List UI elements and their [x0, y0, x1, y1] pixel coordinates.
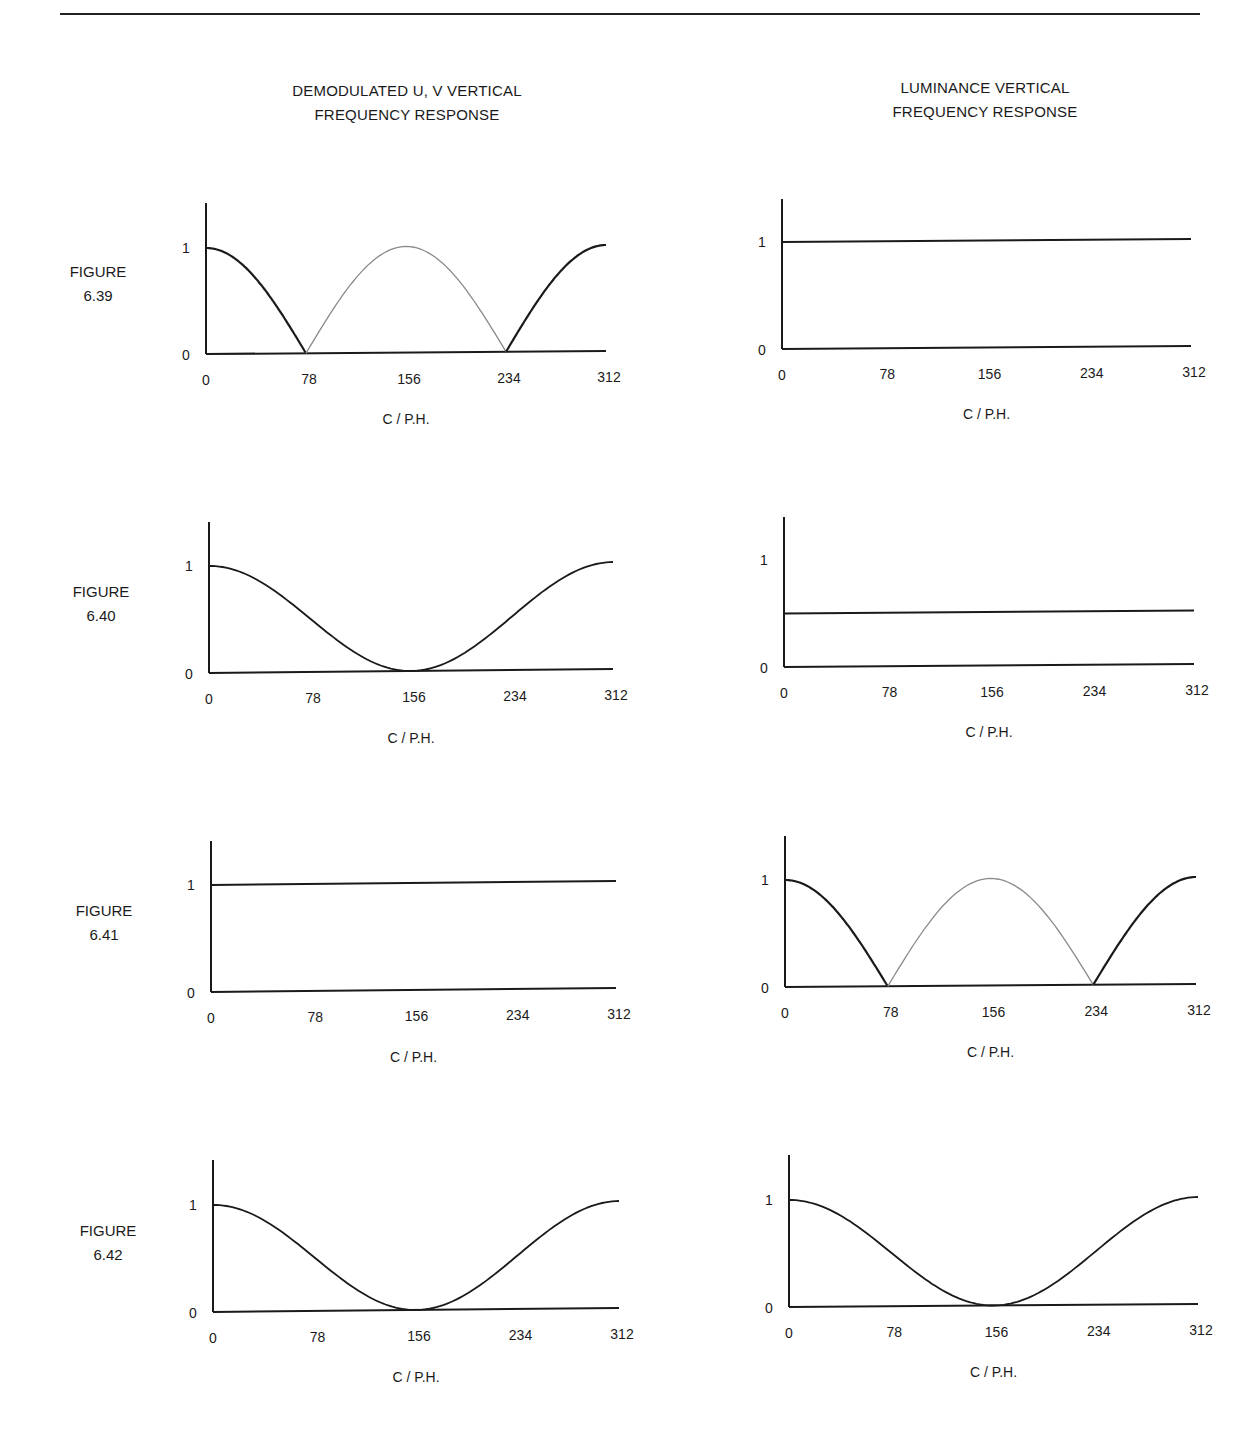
x-tick-label: 78: [882, 684, 898, 700]
x-tick-label: 156: [985, 1324, 1009, 1340]
x-tick-label: 78: [883, 1004, 899, 1020]
x-tick-label: 156: [397, 371, 421, 387]
x-tick-label: 234: [497, 370, 521, 386]
plot-6-40-chroma: 10078156234312C / P.H.: [185, 522, 628, 746]
x-tick-label: 156: [980, 684, 1004, 700]
x-tick-label: 312: [1187, 1002, 1211, 1018]
response-curve: [213, 1201, 619, 1310]
x-axis: [784, 664, 1194, 667]
x-tick-label: 234: [506, 1007, 530, 1023]
x-tick-label: 234: [1085, 1003, 1109, 1019]
x-tick-label: 0: [785, 1325, 793, 1341]
x-tick-label: 156: [978, 366, 1002, 382]
plot-6-39-chroma: 10078156234312C / P.H.: [182, 203, 621, 427]
x-axis-label: C / P.H.: [963, 406, 1010, 422]
x-axis: [782, 346, 1191, 349]
x-tick-label: 312: [1182, 364, 1206, 380]
x-axis-label: C / P.H.: [965, 724, 1012, 740]
x-tick-label: 234: [1080, 365, 1104, 381]
x-tick-label: 78: [886, 1324, 902, 1340]
x-tick-label: 234: [1087, 1323, 1111, 1339]
y-tick-label: 1: [758, 234, 766, 250]
x-tick-label: 312: [607, 1006, 631, 1022]
y-tick-label: 1: [187, 877, 195, 893]
response-curve: [506, 245, 606, 352]
x-tick-label: 78: [307, 1009, 323, 1025]
y-tick-label: 0: [761, 980, 769, 996]
response-line: [782, 239, 1191, 242]
y-tick-label: 1: [189, 1197, 197, 1213]
response-line: [784, 611, 1194, 614]
plot-6-40-luma: 10078156234312C / P.H.: [760, 517, 1209, 740]
x-tick-label: 312: [604, 687, 628, 703]
response-curve: [1093, 877, 1196, 985]
x-tick-label: 0: [781, 1005, 789, 1021]
x-axis-label: C / P.H.: [382, 411, 429, 427]
x-tick-label: 156: [402, 689, 426, 705]
y-tick-label: 1: [761, 872, 769, 888]
x-tick-label: 234: [509, 1327, 533, 1343]
x-tick-label: 312: [597, 369, 621, 385]
x-axis-label: C / P.H.: [392, 1369, 439, 1385]
plot-6-41-luma: 10078156234312C / P.H.: [761, 836, 1211, 1060]
y-tick-label: 1: [182, 240, 190, 256]
x-tick-label: 78: [310, 1329, 326, 1345]
y-tick-label: 0: [758, 342, 766, 358]
y-tick-label: 0: [189, 1305, 197, 1321]
y-tick-label: 0: [185, 666, 193, 682]
response-line: [211, 881, 616, 885]
x-axis-label: C / P.H.: [970, 1364, 1017, 1380]
plot-6-39-luma: 10078156234312C / P.H.: [758, 199, 1206, 422]
plot-6-42-luma: 10078156234312C / P.H.: [765, 1155, 1213, 1380]
response-curve: [206, 248, 306, 353]
response-curve: [209, 562, 613, 671]
y-tick-label: 1: [765, 1192, 773, 1208]
y-tick-label: 1: [185, 558, 193, 574]
plot-6-41-chroma: 10078156234312C / P.H.: [187, 841, 631, 1065]
y-tick-label: 0: [187, 985, 195, 1001]
y-tick-label: 0: [182, 347, 190, 363]
y-tick-label: 0: [765, 1300, 773, 1316]
response-curve: [789, 1197, 1198, 1306]
y-tick-label: 1: [760, 552, 768, 568]
x-tick-label: 234: [1083, 683, 1107, 699]
plots-canvas: 10078156234312C / P.H.10078156234312C / …: [0, 0, 1248, 1431]
response-curve: [785, 880, 888, 986]
x-tick-label: 156: [982, 1004, 1006, 1020]
x-axis: [211, 988, 616, 992]
x-tick-label: 0: [209, 1330, 217, 1346]
x-axis-label: C / P.H.: [387, 730, 434, 746]
x-tick-label: 234: [503, 688, 527, 704]
x-axis: [785, 984, 1196, 987]
x-tick-label: 312: [610, 1326, 634, 1342]
x-axis-label: C / P.H.: [390, 1049, 437, 1065]
x-tick-label: 312: [1189, 1322, 1213, 1338]
x-tick-label: 78: [305, 690, 321, 706]
x-tick-label: 0: [780, 685, 788, 701]
plot-6-42-chroma: 10078156234312C / P.H.: [189, 1160, 634, 1385]
x-tick-label: 0: [202, 372, 210, 388]
y-tick-label: 0: [760, 660, 768, 676]
x-tick-label: 78: [301, 371, 317, 387]
x-tick-label: 156: [407, 1328, 431, 1344]
x-axis-label: C / P.H.: [967, 1044, 1014, 1060]
x-tick-label: 156: [405, 1008, 429, 1024]
alias-lobe-curve: [888, 879, 1094, 987]
x-tick-label: 0: [207, 1010, 215, 1026]
x-tick-label: 312: [1185, 682, 1209, 698]
alias-lobe-curve: [306, 247, 506, 354]
x-tick-label: 0: [205, 691, 213, 707]
x-axis: [206, 351, 606, 354]
x-tick-label: 78: [879, 366, 895, 382]
x-tick-label: 0: [778, 367, 786, 383]
